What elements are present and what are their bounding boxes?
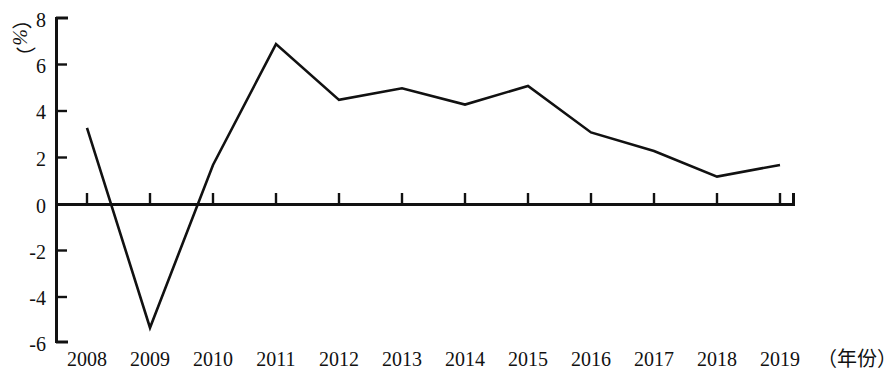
data-series-line: [87, 44, 780, 328]
y-tick-label-6: 6: [24, 56, 46, 76]
y-tick-label-minus-2: -2: [14, 242, 46, 262]
x-axis-unit-label: （年份）: [817, 349, 888, 369]
x-axis-group: [56, 193, 795, 205]
y-tick-label-minus-6: -6: [14, 334, 46, 354]
y-tick-label-minus-4: -4: [14, 288, 46, 308]
y-axis-group: [56, 17, 68, 343]
y-tick-label-4: 4: [24, 102, 46, 122]
y-tick-label-0: 0: [24, 196, 46, 216]
y-tick-label-8: 8: [24, 10, 46, 30]
y-tick-label-2: 2: [24, 149, 46, 169]
x-tick-label-2019: 2019: [740, 349, 820, 369]
x-tick-marks: [87, 193, 780, 204]
